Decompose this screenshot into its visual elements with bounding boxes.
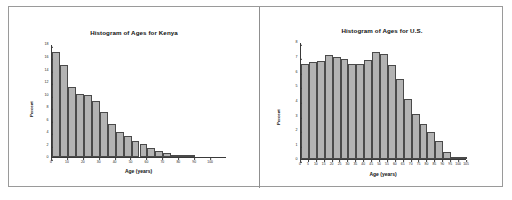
y-tick-label: 14 bbox=[45, 68, 52, 72]
x-tick-mark bbox=[426, 160, 427, 162]
x-tick-label: 0 bbox=[299, 160, 301, 166]
x-tick-mark bbox=[324, 160, 325, 162]
histogram-bar bbox=[364, 60, 372, 159]
histogram-bar bbox=[325, 55, 333, 159]
x-tick-label: 45 bbox=[369, 160, 373, 166]
y-tick-mark bbox=[300, 88, 302, 89]
x-tick-label: 95 bbox=[448, 160, 452, 166]
x-tick-label: 105 bbox=[463, 160, 469, 166]
x-tick-mark bbox=[434, 160, 435, 162]
x-tick-label: 65 bbox=[401, 160, 405, 166]
x-tick-mark bbox=[83, 158, 84, 160]
y-axis-label-us: Percent bbox=[276, 109, 281, 125]
histogram-bar bbox=[388, 65, 396, 159]
x-tick-label: 75 bbox=[417, 160, 421, 166]
x-tick-mark bbox=[300, 160, 301, 162]
y-tick-mark bbox=[300, 117, 302, 118]
x-tick-label: 10 bbox=[314, 160, 318, 166]
x-tick-mark bbox=[210, 158, 211, 160]
bar-series-kenya bbox=[52, 44, 227, 157]
x-tick-mark bbox=[458, 160, 459, 162]
y-tick-mark bbox=[300, 59, 302, 60]
x-tick-label: 40 bbox=[361, 160, 365, 166]
histogram-bar bbox=[124, 136, 132, 157]
x-tick-label: 20 bbox=[81, 158, 85, 164]
x-tick-label: 20 bbox=[330, 160, 334, 166]
histogram-bar bbox=[179, 155, 187, 157]
x-tick-label: 25 bbox=[338, 160, 342, 166]
y-tick-label: 8 bbox=[296, 41, 301, 45]
x-tick-mark bbox=[403, 160, 404, 162]
x-tick-label: 0 bbox=[50, 158, 52, 164]
histogram-bar bbox=[451, 157, 459, 159]
y-tick-label: 5 bbox=[296, 85, 301, 89]
y-tick-mark bbox=[51, 46, 53, 47]
x-tick-mark bbox=[194, 158, 195, 160]
histogram-bar bbox=[116, 132, 124, 157]
histogram-bar bbox=[163, 153, 171, 157]
x-tick-label: 85 bbox=[432, 160, 436, 166]
figure-frame: Histogram of Ages for Kenya Percent Age … bbox=[8, 6, 503, 187]
plot-area-kenya: Percent Age (years) 02468101214161801020… bbox=[51, 45, 226, 158]
x-tick-mark bbox=[99, 158, 100, 160]
x-tick-mark bbox=[178, 158, 179, 160]
y-tick-mark bbox=[300, 44, 302, 45]
histogram-bar bbox=[140, 144, 148, 157]
x-tick-label: 5 bbox=[307, 160, 309, 166]
x-tick-mark bbox=[411, 160, 412, 162]
x-tick-label: 30 bbox=[97, 158, 101, 164]
x-tick-label: 10 bbox=[65, 158, 69, 164]
y-tick-mark bbox=[300, 74, 302, 75]
x-tick-label: 55 bbox=[385, 160, 389, 166]
x-tick-label: 35 bbox=[353, 160, 357, 166]
histogram-bar bbox=[68, 87, 76, 157]
histogram-bar bbox=[427, 132, 435, 159]
x-tick-mark bbox=[371, 160, 372, 162]
histogram-bar bbox=[348, 64, 356, 159]
y-tick-mark bbox=[51, 147, 53, 148]
x-tick-mark bbox=[347, 160, 348, 162]
histogram-bar bbox=[171, 155, 179, 158]
x-tick-mark bbox=[308, 160, 309, 162]
y-tick-mark bbox=[51, 122, 53, 123]
x-tick-label: 70 bbox=[409, 160, 413, 166]
plot-area-us: Percent Age (years) 01234567805101520253… bbox=[300, 43, 466, 160]
histogram-bar bbox=[459, 157, 467, 159]
histogram-bar bbox=[60, 65, 68, 157]
histogram-bar bbox=[443, 152, 451, 159]
x-tick-mark bbox=[51, 158, 52, 160]
histogram-bar bbox=[92, 101, 100, 158]
x-tick-mark bbox=[442, 160, 443, 162]
histogram-bar bbox=[420, 124, 428, 159]
y-tick-mark bbox=[51, 84, 53, 85]
y-tick-mark bbox=[51, 71, 53, 72]
y-tick-label: 1 bbox=[296, 144, 301, 148]
y-tick-label: 12 bbox=[45, 81, 52, 85]
x-tick-mark bbox=[340, 160, 341, 162]
x-tick-mark bbox=[131, 158, 132, 160]
chart-panel-us: Histogram of Ages for U.S. Percent Age (… bbox=[260, 7, 504, 188]
y-tick-mark bbox=[300, 147, 302, 148]
histogram-bar bbox=[52, 52, 60, 157]
histogram-bar bbox=[100, 112, 108, 157]
y-tick-label: 2 bbox=[296, 129, 301, 133]
x-tick-label: 30 bbox=[346, 160, 350, 166]
x-tick-mark bbox=[387, 160, 388, 162]
x-tick-label: 90 bbox=[192, 158, 196, 164]
y-tick-mark bbox=[300, 103, 302, 104]
x-tick-label: 50 bbox=[377, 160, 381, 166]
chart-title-kenya: Histogram of Ages for Kenya bbox=[9, 29, 259, 36]
x-tick-mark bbox=[316, 160, 317, 162]
histogram-bar bbox=[76, 94, 84, 157]
chart-title-us: Histogram of Ages for U.S. bbox=[260, 27, 504, 34]
x-tick-mark bbox=[395, 160, 396, 162]
x-tick-mark bbox=[67, 158, 68, 160]
y-tick-label: 16 bbox=[45, 56, 52, 60]
x-tick-mark bbox=[379, 160, 380, 162]
y-tick-mark bbox=[51, 134, 53, 135]
histogram-bar bbox=[309, 62, 317, 159]
x-axis-label-kenya: Age (years) bbox=[51, 168, 226, 174]
histogram-bar bbox=[435, 141, 443, 159]
x-tick-label: 40 bbox=[113, 158, 117, 164]
y-tick-label: 4 bbox=[296, 100, 301, 104]
